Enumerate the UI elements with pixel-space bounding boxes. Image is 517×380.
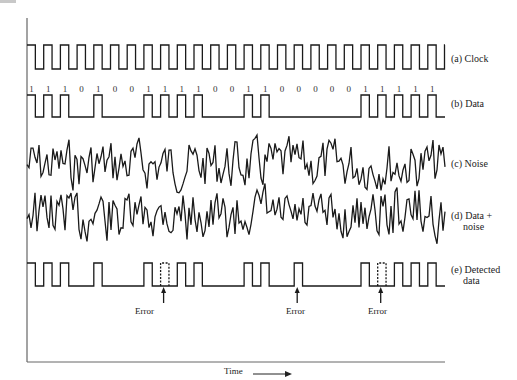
bit-label: 1 <box>61 84 69 94</box>
clock-label: (a) Clock <box>451 53 489 64</box>
error-label-3: Error <box>368 306 387 316</box>
error-arrow-icon <box>295 287 300 293</box>
detected-label-2: data <box>463 275 480 286</box>
error-arrow-icon <box>378 287 383 293</box>
bit-label: 1 <box>362 84 370 94</box>
bit-label: 0 <box>211 84 219 94</box>
noise-label: (c) Noise <box>451 158 488 169</box>
noise-waveform <box>27 135 445 193</box>
data-plus-noise-waveform <box>27 184 445 244</box>
time-arrow-head-icon <box>285 371 292 377</box>
bit-label: 1 <box>378 84 386 94</box>
bit-label: 1 <box>178 84 186 94</box>
bit-label: 1 <box>261 84 269 94</box>
bit-label: 0 <box>111 84 119 94</box>
bit-label: 0 <box>311 84 319 94</box>
detected-label-1: (e) Detected <box>451 264 500 275</box>
error-arrows <box>161 287 383 303</box>
bit-label: 1 <box>44 84 52 94</box>
time-axis-label: Time <box>224 366 243 376</box>
data-label: (b) Data <box>451 98 484 109</box>
bit-label: 1 <box>395 84 403 94</box>
data-waveform <box>27 95 445 117</box>
bit-label: 1 <box>94 84 102 94</box>
bit-label: 1 <box>28 84 36 94</box>
bit-label: 1 <box>144 84 152 94</box>
bit-label: 1 <box>195 84 203 94</box>
bit-label: 0 <box>345 84 353 94</box>
error-label-2: Error <box>286 306 305 316</box>
data-noise-label-1: (d) Data + <box>451 210 492 221</box>
bit-label: 0 <box>228 84 236 94</box>
data-noise-label-2: noise <box>463 221 484 232</box>
bit-label: 1 <box>245 84 253 94</box>
bit-label: 1 <box>161 84 169 94</box>
bit-label: 0 <box>78 84 86 94</box>
clock-waveform <box>27 45 445 69</box>
timing-diagram <box>0 0 517 380</box>
bit-label: 0 <box>328 84 336 94</box>
detected-data-waveform <box>27 263 445 286</box>
bit-label: 0 <box>295 84 303 94</box>
bit-label: 0 <box>128 84 136 94</box>
error-arrow-icon <box>161 287 166 293</box>
error-label-1: Error <box>135 306 154 316</box>
bit-label: 1 <box>412 84 420 94</box>
bit-label: 1 <box>428 84 436 94</box>
bit-label: 0 <box>278 84 286 94</box>
